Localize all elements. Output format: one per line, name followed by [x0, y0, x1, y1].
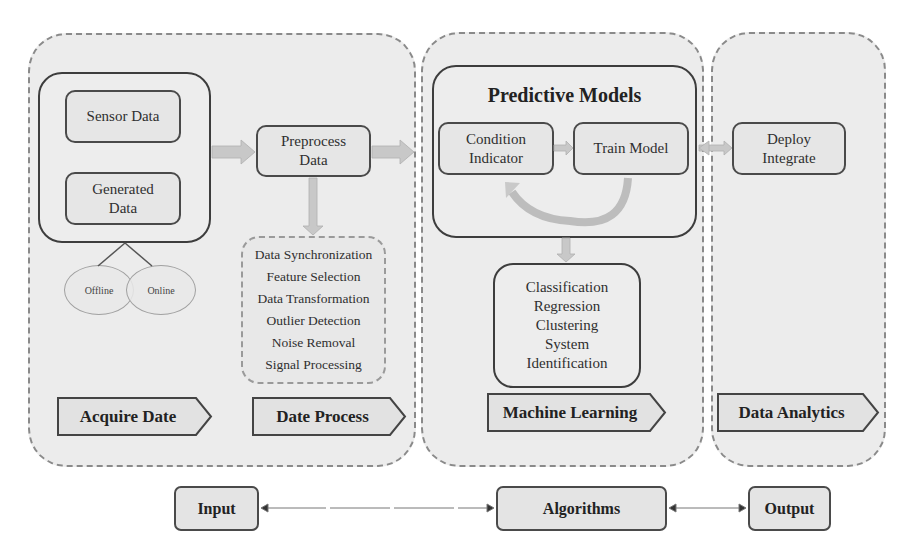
step-item: Data Transformation — [257, 291, 369, 307]
sensor-data-label: Sensor Data — [87, 107, 160, 126]
condition-indicator-box: Condition Indicator — [438, 122, 554, 175]
input-box: Input — [174, 486, 259, 531]
task-item: System Identification — [522, 335, 612, 373]
task-item: Regression — [534, 297, 601, 316]
stage-tag-analytics: Data Analytics — [717, 393, 880, 432]
task-item: Clustering — [536, 316, 599, 335]
preprocess-steps-list: Data Synchronization Feature Selection D… — [241, 236, 386, 384]
output-label: Output — [765, 500, 815, 518]
generated-data-box: Generated Data — [65, 172, 181, 225]
analytics-stage-label: Data Analytics — [717, 393, 866, 432]
stage-tag-acquire: Acquire Date — [57, 397, 213, 436]
step-item: Data Synchronization — [255, 247, 372, 263]
train-model-label: Train Model — [594, 139, 669, 158]
deploy-integrate-box: Deploy Integrate — [732, 122, 846, 175]
predictive-models-title: Predictive Models — [432, 84, 697, 107]
input-label: Input — [197, 500, 235, 518]
offline-mode: Offline — [64, 265, 134, 315]
algorithms-box: Algorithms — [496, 486, 667, 531]
stage-tag-machine-learning: Machine Learning — [487, 393, 667, 432]
acquire-stage-label: Acquire Date — [57, 397, 199, 436]
train-model-box: Train Model — [573, 122, 689, 175]
preprocess-data-label: Preprocess Data — [272, 132, 355, 170]
offline-label: Offline — [85, 285, 114, 296]
step-item: Noise Removal — [272, 335, 356, 351]
ml-tasks-box: Classification Regression Clustering Sys… — [493, 263, 641, 388]
preprocess-data-box: Preprocess Data — [256, 125, 371, 177]
online-label: Online — [147, 285, 174, 296]
sensor-data-box: Sensor Data — [65, 90, 181, 143]
step-item: Feature Selection — [266, 269, 360, 285]
step-item: Signal Processing — [265, 357, 361, 373]
generated-data-label: Generated Data — [85, 180, 161, 218]
algorithms-label: Algorithms — [543, 500, 620, 518]
condition-indicator-label: Condition Indicator — [458, 130, 534, 168]
stage-tag-process: Date Process — [252, 397, 407, 436]
process-stage-label: Date Process — [252, 397, 393, 436]
output-box: Output — [748, 486, 831, 531]
step-item: Outlier Detection — [266, 313, 360, 329]
task-item: Classification — [526, 278, 609, 297]
deploy-integrate-label: Deploy Integrate — [756, 130, 822, 168]
ml-stage-label: Machine Learning — [487, 393, 653, 432]
online-mode: Online — [126, 265, 196, 315]
